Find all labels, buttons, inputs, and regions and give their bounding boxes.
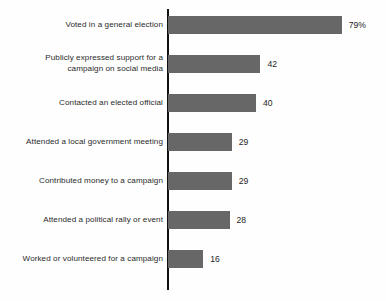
plot-area: Voted in a general election79%Publicly e…: [0, 0, 386, 301]
bar-row: Voted in a general election79%: [0, 16, 386, 34]
bar-category-label: Contributed money to a campaign: [7, 176, 163, 187]
bar: [168, 94, 256, 112]
bar-category-label: Attended a political rally or event: [7, 215, 163, 226]
bar-value-label: 16: [210, 254, 220, 264]
bar: [168, 172, 232, 190]
bar-category-label: Worked or volunteered for a campaign: [7, 254, 163, 265]
bar-value-label: 29: [239, 176, 249, 186]
bar-category-label: Voted in a general election: [7, 20, 163, 31]
bar-row: Contributed money to a campaign29: [0, 172, 386, 190]
bar-value-label: 29: [239, 137, 249, 147]
bar: [168, 133, 232, 151]
bar-row: Attended a political rally or event28: [0, 211, 386, 229]
bar-value-label: 28: [237, 215, 247, 225]
bar-category-label: Attended a local government meeting: [7, 137, 163, 148]
bar-row: Publicly expressed support for a campaig…: [0, 55, 386, 73]
bar: [168, 211, 230, 229]
bar-row: Worked or volunteered for a campaign16: [0, 250, 386, 268]
bar: [168, 16, 342, 34]
bar-value-label: 42: [267, 59, 277, 69]
bar-category-label: Publicly expressed support for a campaig…: [7, 53, 163, 74]
bar-row: Contacted an elected official40: [0, 94, 386, 112]
bar-chart: Voted in a general election79%Publicly e…: [0, 0, 386, 301]
bar-value-label: 40: [263, 98, 273, 108]
bar: [168, 250, 203, 268]
bar-category-label: Contacted an elected official: [7, 98, 163, 109]
bar-value-label: 79%: [349, 20, 366, 30]
bar-row: Attended a local government meeting29: [0, 133, 386, 151]
bar: [168, 55, 260, 73]
